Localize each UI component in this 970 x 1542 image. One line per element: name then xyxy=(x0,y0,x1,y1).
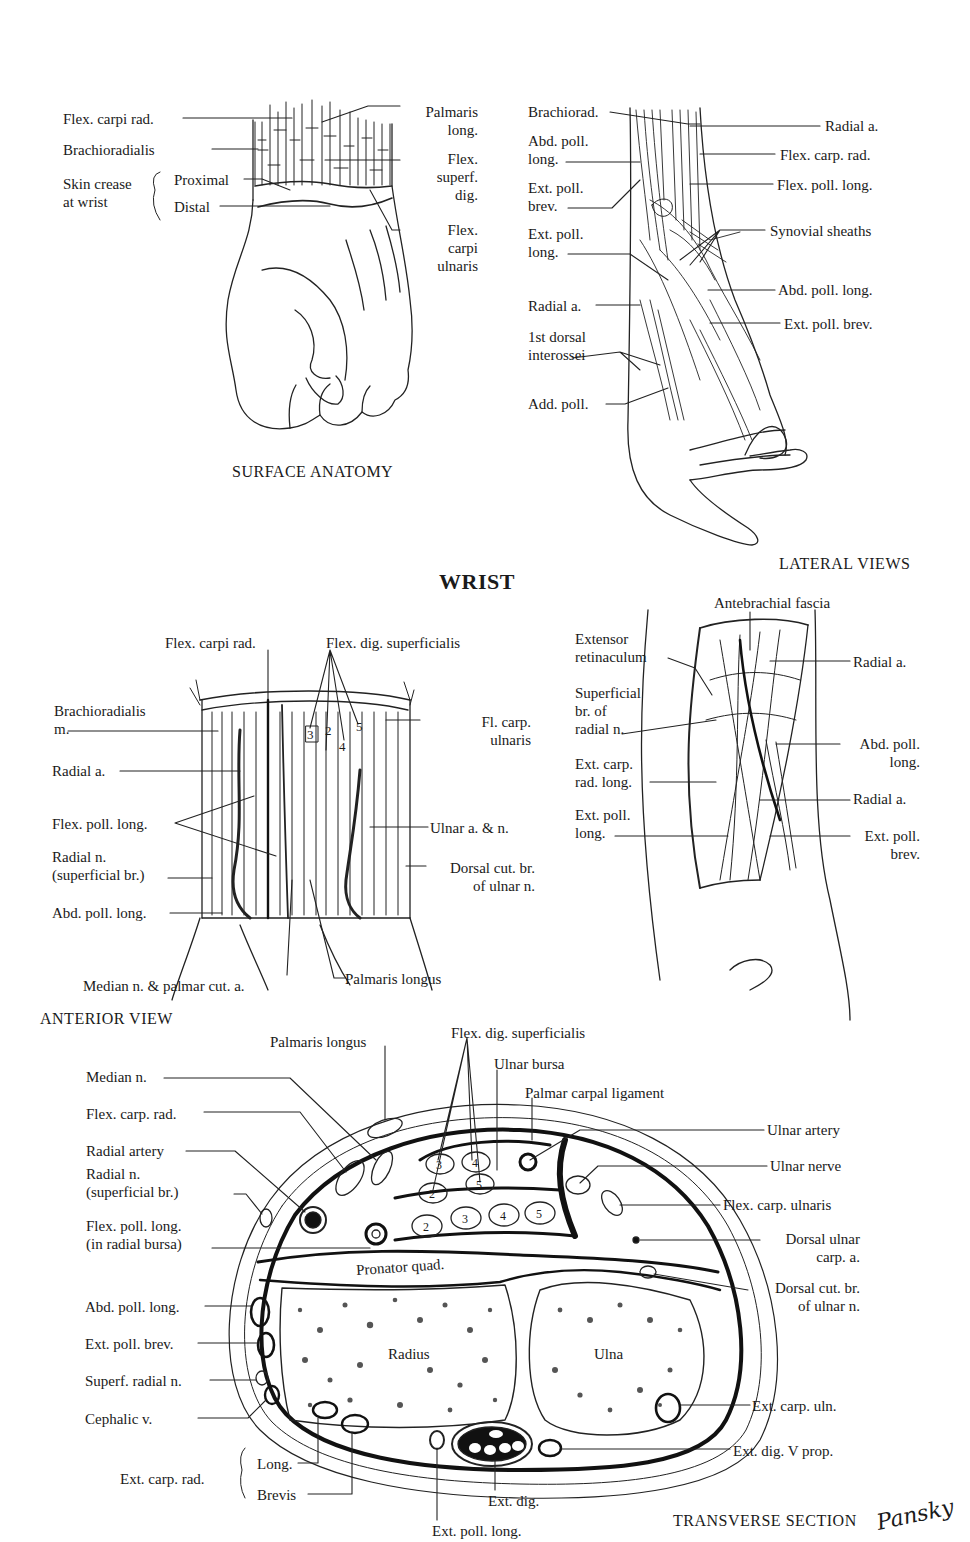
tendon-number-lower-5: 5 xyxy=(536,1205,542,1223)
label-ext-dig: Ext. dig. xyxy=(488,1492,539,1510)
label-first-dorsal-interossei: 1st dorsal interossei xyxy=(528,328,586,364)
label-palmaris-longus-2: Palmaris longus xyxy=(270,1033,366,1051)
label-flex-poll-long-radial-bursa: Flex. poll. long. (in radial bursa) xyxy=(86,1217,182,1253)
label-ext-poll-long-1: Ext. poll. long. xyxy=(528,225,583,261)
label-ulnar-a-n: Ulnar a. & n. xyxy=(430,819,509,837)
label-palmar-carpal-ligament: Palmar carpal ligament xyxy=(525,1084,664,1102)
tendon-number-lower-2: 2 xyxy=(423,1218,429,1236)
label-ext-dig-v-prop: Ext. dig. V prop. xyxy=(733,1442,833,1460)
label-superficial-br-radial-n: Superficial br. of radial n. xyxy=(575,684,641,738)
leader-lines xyxy=(68,106,850,1520)
label-ext-poll-brev-1: Ext. poll. brev. xyxy=(528,179,583,215)
label-dorsal-cut-br-ulnar-1: Dorsal cut. br. of ulnar n. xyxy=(420,859,535,895)
label-synovial-sheaths: Synovial sheaths xyxy=(770,222,871,240)
tendon-number-4: 4 xyxy=(339,738,346,756)
label-palmaris-long: Palmaris long. xyxy=(402,103,478,139)
label-radial-n-superficial-2: Radial n. (superficial br.) xyxy=(86,1165,178,1201)
label-flex-carp-rad-1: Flex. carp. rad. xyxy=(780,146,870,164)
caption-surface-anatomy: SURFACE ANATOMY xyxy=(232,463,393,481)
tendon-number-2: 2 xyxy=(325,722,332,740)
label-ext-carp-rad-long: Ext. carp. rad. long. xyxy=(575,755,633,791)
label-ext-poll-long-2: Ext. poll. long. xyxy=(575,806,630,842)
tendon-number-3: 3 xyxy=(307,726,314,744)
label-flex-carp-rad-3: Flex. carp. rad. xyxy=(86,1105,176,1123)
label-abd-poll-long-3: Abd. poll. long. xyxy=(840,735,920,771)
label-ext-poll-brev-4: Ext. poll. brev. xyxy=(85,1335,174,1353)
label-proximal: Proximal xyxy=(174,171,229,189)
ulna-label: Ulna xyxy=(594,1345,623,1363)
label-ext-poll-brev-3: Ext. poll. brev. xyxy=(840,827,920,863)
label-ulnar-bursa: Ulnar bursa xyxy=(494,1055,564,1073)
label-ext-poll-long-3: Ext. poll. long. xyxy=(432,1522,522,1540)
label-ext-carp-uln: Ext. carp. uln. xyxy=(752,1397,837,1415)
label-distal: Distal xyxy=(174,198,210,216)
label-flex-poll-long-2: Flex. poll. long. xyxy=(52,815,147,833)
lateral-view-dissection-drawing xyxy=(641,610,850,1020)
anterior-view-drawing xyxy=(172,680,432,1000)
tendon-number-upper-5: 5 xyxy=(476,1176,482,1194)
label-flex-carp-ulnaris-2: Flex. carp. ulnaris xyxy=(723,1196,831,1214)
label-brachioradialis-m: Brachioradialis m. xyxy=(54,702,146,738)
label-median-n: Median n. xyxy=(86,1068,147,1086)
label-radial-a-5: Radial a. xyxy=(52,762,105,780)
caption-lateral-views: LATERAL VIEWS xyxy=(779,555,910,573)
label-abd-poll-long-4: Abd. poll. long. xyxy=(52,904,147,922)
tendon-number-upper-2: 2 xyxy=(429,1185,435,1203)
label-brevis: Brevis xyxy=(257,1486,296,1504)
lateral-view-hand-drawing xyxy=(628,108,807,545)
label-radial-a-right: Radial a. xyxy=(825,117,878,135)
label-ext-carp-rad: Ext. carp. rad. xyxy=(120,1470,205,1488)
wrist-title: WRIST xyxy=(439,569,515,595)
label-skin-crease: Skin crease at wrist xyxy=(63,175,132,211)
label-radial-a-3: Radial a. xyxy=(853,653,906,671)
label-extensor-retinaculum: Extensor retinaculum xyxy=(575,630,647,666)
label-palmaris-longus: Palmaris longus xyxy=(345,970,441,988)
label-flex-poll-long-1: Flex. poll. long. xyxy=(777,176,872,194)
label-dorsal-cut-br-ulnar-2: Dorsal cut. br. of ulnar n. xyxy=(740,1279,860,1315)
label-radial-a-left: Radial a. xyxy=(528,297,581,315)
tendon-number-upper-4: 4 xyxy=(472,1154,478,1172)
tendon-number-upper-3: 3 xyxy=(436,1156,442,1174)
transverse-section-drawing xyxy=(229,1104,777,1498)
label-ext-poll-brev-2: Ext. poll. brev. xyxy=(784,315,873,333)
label-brachiorad: Brachiorad. xyxy=(528,103,598,121)
label-median-n-palmar: Median n. & palmar cut. a. xyxy=(83,977,245,995)
label-ulnar-artery: Ulnar artery xyxy=(767,1121,840,1139)
label-long: Long. xyxy=(257,1455,292,1473)
label-flex-carpi-ulnaris: Flex. carpi ulnaris xyxy=(402,221,478,275)
label-fl-carp-ulnaris: Fl. carp. ulnaris xyxy=(455,713,531,749)
label-ulnar-nerve: Ulnar nerve xyxy=(770,1157,841,1175)
caption-transverse-section: TRANSVERSE SECTION xyxy=(673,1512,857,1530)
label-radial-artery: Radial artery xyxy=(86,1142,164,1160)
label-radial-a-4: Radial a. xyxy=(853,790,906,808)
label-radial-n-superficial: Radial n. (superficial br.) xyxy=(52,848,144,884)
radius-label: Radius xyxy=(388,1345,430,1363)
label-flex-dig-superficialis: Flex. dig. superficialis xyxy=(326,634,460,652)
label-brachioradialis: Brachioradialis xyxy=(63,141,155,159)
label-abd-poll-long-1: Abd. poll. long. xyxy=(528,132,588,168)
label-add-poll: Add. poll. xyxy=(528,395,588,413)
label-dorsal-ulnar-carp-a: Dorsal ulnar carp. a. xyxy=(750,1230,860,1266)
label-cephalic-v: Cephalic v. xyxy=(85,1410,152,1428)
caption-anterior-view: ANTERIOR VIEW xyxy=(40,1010,173,1028)
tendon-number-lower-3: 3 xyxy=(462,1210,468,1228)
label-abd-poll-long-2: Abd. poll. long. xyxy=(778,281,873,299)
label-superf-radial-n: Superf. radial n. xyxy=(85,1372,182,1390)
tendon-number-5: 5 xyxy=(356,718,363,736)
label-flex-carpi-rad-2: Flex. carpi rad. xyxy=(165,634,256,652)
label-flex-carpi-rad: Flex. carpi rad. xyxy=(63,110,154,128)
label-flex-dig-superficialis-2: Flex. dig. superficialis xyxy=(451,1024,585,1042)
label-abd-poll-long-5: Abd. poll. long. xyxy=(85,1298,180,1316)
tendon-number-lower-4: 4 xyxy=(500,1207,506,1225)
label-antebrachial-fascia: Antebrachial fascia xyxy=(714,594,830,612)
label-flex-superf-dig: Flex. superf. dig. xyxy=(402,150,478,204)
